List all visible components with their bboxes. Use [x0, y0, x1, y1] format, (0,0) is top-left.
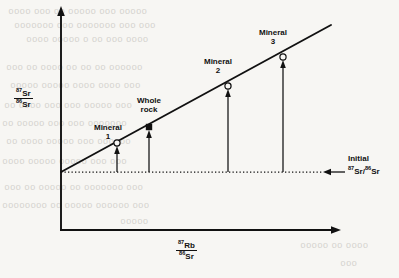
x-axis-label: 87Rb 86Sr — [176, 240, 197, 261]
label-mineral-2: Mineral 2 — [196, 58, 240, 75]
tie-line-mineral-1 — [114, 146, 120, 172]
initial-ratio-el-a: Sr — [354, 166, 362, 175]
initial-ratio-arrowhead — [323, 169, 331, 175]
isochron-diagram — [0, 0, 399, 278]
label-whole-rock-line2: rock — [141, 105, 158, 114]
y-axis-numerator: Sr — [22, 89, 30, 98]
x-axis-numerator: Rb — [184, 241, 195, 250]
y-axis-label: 87Sr 86Sr — [14, 88, 33, 109]
isochron-line — [61, 25, 331, 172]
initial-ratio-line2: 87Sr/86Sr — [348, 165, 380, 176]
initial-ratio-line-group — [61, 169, 345, 175]
figure-canvas: ooooo ooo ooooo oo ooo ooooooo ooo ooooo… — [0, 0, 399, 278]
marker-mineral-2 — [225, 83, 231, 89]
y-axis-arrowhead — [57, 6, 65, 16]
label-mineral-3: Mineral 3 — [251, 29, 295, 46]
label-mineral-2-line2: 2 — [216, 66, 220, 75]
tie-line-whole-rock — [146, 130, 152, 172]
tie-line-mineral-3 — [280, 60, 286, 172]
initial-ratio-line1: Initial — [348, 154, 369, 163]
initial-ratio-annotation: Initial 87Sr/86Sr — [348, 155, 380, 176]
label-mineral-1-line2: 1 — [106, 132, 110, 141]
x-axis-denominator: Sr — [185, 252, 193, 261]
label-mineral-1: Mineral 1 — [86, 124, 130, 141]
marker-mineral-3 — [280, 54, 286, 60]
marker-whole-rock — [146, 124, 152, 130]
sample-tie-lines — [114, 60, 286, 172]
label-mineral-3-line2: 3 — [271, 37, 275, 46]
label-whole-rock: Whole rock — [124, 97, 174, 114]
tie-line-mineral-2 — [225, 89, 231, 172]
initial-ratio-el-b: Sr — [371, 166, 379, 175]
y-axis-denominator: Sr — [22, 100, 30, 109]
x-axis-arrowhead — [331, 226, 341, 234]
axis-group — [57, 6, 341, 234]
